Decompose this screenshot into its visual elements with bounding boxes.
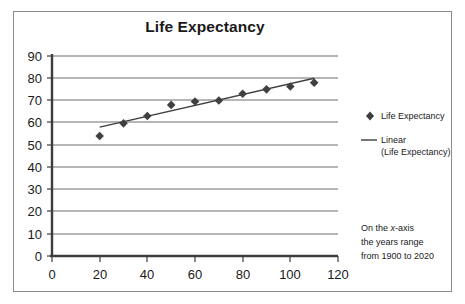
- legend-label-trend-line1: Linear: [381, 135, 406, 145]
- annotation-line1-post: -axis: [395, 223, 415, 233]
- y-tick-label: 90: [28, 49, 42, 64]
- y-tick-label: 70: [28, 93, 42, 108]
- y-tick-label: 10: [28, 227, 42, 242]
- x-tick-label: 0: [48, 267, 55, 282]
- legend-label-series: Life Expectancy: [381, 111, 445, 121]
- x-tick-label: 40: [140, 267, 154, 282]
- data-point-marker: [238, 89, 247, 98]
- data-point-marker: [262, 85, 271, 94]
- y-tick-label: 30: [28, 182, 42, 197]
- y-tick-label: 60: [28, 115, 42, 130]
- x-tick-label: 60: [188, 267, 202, 282]
- x-tick-label: 100: [279, 267, 301, 282]
- x-tick-label: 20: [93, 267, 107, 282]
- y-tick-labels: 90 80 70 60 50 40 30 20 10 0: [28, 49, 42, 264]
- legend-label-trend-line2: (Life Expectancy): [381, 147, 451, 157]
- data-point-marker: [143, 112, 152, 121]
- data-point-marker: [215, 96, 224, 105]
- x-tick-label: 120: [327, 267, 349, 282]
- y-tick-label: 0: [35, 249, 42, 264]
- data-point-marker: [95, 132, 104, 141]
- annotation-line1-pre: On the: [361, 223, 391, 233]
- y-tick-label: 80: [28, 71, 42, 86]
- y-tick-label: 50: [28, 138, 42, 153]
- x-tick-label: 80: [236, 267, 250, 282]
- plot-area: 90 80 70 60 50 40 30 20 10 0 0 20 40 60 …: [0, 0, 465, 304]
- data-point-group: [95, 78, 318, 140]
- y-tick-label: 40: [28, 160, 42, 175]
- trendline-linear: [100, 78, 315, 127]
- chart-figure: Life Expectancy: [0, 0, 465, 304]
- y-tick-label: 20: [28, 204, 42, 219]
- annotation-line-3: from 1900 to 2020: [361, 251, 434, 261]
- legend: Life Expectancy Linear (Life Expectancy): [361, 111, 451, 157]
- x-tick-labels: 0 20 40 60 80 100 120: [48, 267, 348, 282]
- legend-diamond-marker-icon: [366, 112, 374, 121]
- x-axis-annotation: On the x-axis the years range from 1900 …: [361, 223, 434, 261]
- annotation-line-1: On the x-axis: [361, 223, 415, 233]
- data-point-marker: [167, 101, 176, 110]
- annotation-line-2: the years range: [361, 237, 424, 247]
